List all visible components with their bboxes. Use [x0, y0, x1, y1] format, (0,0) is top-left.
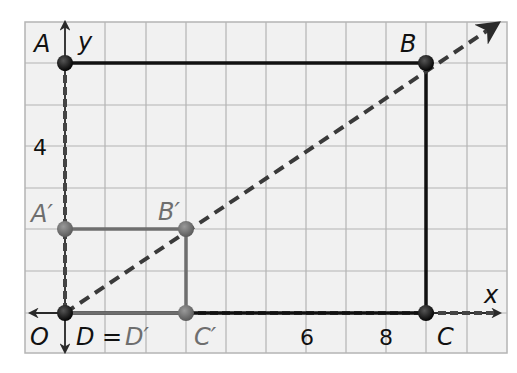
- point-a-prime: [57, 221, 73, 237]
- label-b: B: [400, 30, 416, 58]
- label-d: D: [76, 323, 94, 351]
- tick-label-x-6: 6: [300, 325, 314, 350]
- label-y-axis: y: [77, 28, 93, 56]
- tick-label-x-8: 8: [379, 325, 393, 350]
- coordinate-grid-diagram: A y B 4 A′ B′ x O D = D′ C′ 6 8 C: [0, 0, 517, 373]
- label-b-prime: B′: [158, 198, 180, 226]
- point-b-prime: [178, 221, 194, 237]
- label-equals: =: [102, 323, 122, 351]
- point-a: [57, 55, 73, 71]
- label-d-prime: D′: [125, 323, 149, 351]
- label-c-prime: C′: [194, 323, 217, 351]
- point-c-prime: [178, 305, 194, 321]
- label-origin-o: O: [30, 323, 49, 351]
- label-x-axis: x: [483, 281, 499, 309]
- point-b: [418, 55, 434, 71]
- label-c: C: [437, 323, 454, 351]
- label-a-prime: A′: [29, 200, 53, 228]
- label-a: A: [32, 30, 50, 58]
- point-c: [418, 305, 434, 321]
- tick-label-y-4: 4: [33, 135, 47, 160]
- point-origin-d: [57, 305, 73, 321]
